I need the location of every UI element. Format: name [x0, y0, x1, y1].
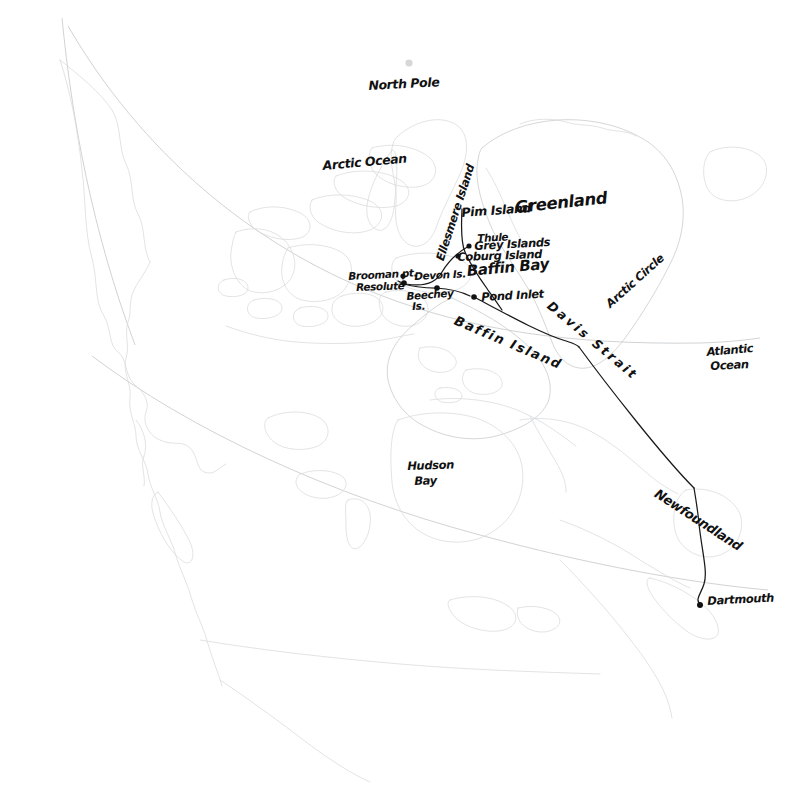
coast-baffin-inner-b	[462, 369, 502, 395]
coast-south-border	[200, 640, 600, 674]
dot-pond-inlet[interactable]	[471, 294, 477, 300]
coast-hudson-bay	[391, 413, 523, 542]
dot-dartmouth[interactable]	[697, 602, 703, 608]
arctic-circle-arc	[68, 26, 760, 343]
coast-quebec-north	[430, 399, 576, 446]
coast-devon-island	[392, 253, 471, 293]
coast-greenland-west-detail	[486, 168, 526, 248]
dot-beechey-is[interactable]	[434, 285, 440, 291]
coast-greenland	[477, 120, 683, 369]
dot-resolute[interactable]	[401, 280, 407, 286]
meridian-arc	[62, 18, 135, 345]
coast-small-island-b	[247, 298, 282, 318]
coast-great-bear-lake	[265, 412, 328, 449]
coast-prince-of-wales	[332, 293, 383, 326]
map-vector-layer	[0, 0, 803, 786]
coast-ungava	[530, 416, 566, 492]
dot-brooman-pt[interactable]	[400, 273, 405, 278]
map-canvas: North Pole Arctic Ocean Greenland Baffin…	[0, 0, 803, 786]
route-segment-newfoundland-to-dartmouth	[694, 488, 705, 605]
coast-baffin-inner-a	[418, 347, 456, 373]
coast-labrador	[520, 419, 678, 495]
coast-small-island-a	[293, 306, 328, 326]
north-pole-dot	[405, 59, 412, 66]
coast-alaska-panhandle	[125, 262, 222, 686]
expedition-route-group	[398, 209, 705, 605]
coast-mexico	[220, 680, 370, 782]
coast-archipelago-d	[369, 145, 435, 187]
coast-great-lakes-b	[517, 606, 559, 632]
coastline-group	[60, 60, 767, 782]
coast-iceland	[704, 147, 767, 201]
coast-alaska-west	[60, 60, 150, 262]
route-segment-davis-strait	[579, 347, 694, 488]
parallel-arc	[92, 356, 768, 590]
coast-great-lakes-a	[448, 597, 516, 632]
coast-lake-winnipeg	[346, 499, 371, 549]
coast-archipelago-b	[310, 195, 382, 233]
coast-stlawrence	[560, 520, 690, 588]
route-segment-beechey-to-pond	[474, 297, 579, 347]
coast-small-island-c	[218, 278, 248, 296]
coast-archipelago-a	[248, 207, 310, 240]
graticule-group	[62, 18, 768, 590]
dot-coburg-island[interactable]	[455, 253, 460, 258]
coast-eastern-seaboard	[560, 560, 672, 718]
coast-baffin-lake	[435, 387, 462, 402]
coast-novascotia	[647, 578, 718, 639]
coast-alaska	[60, 60, 226, 473]
coast-baffin-island	[387, 298, 550, 439]
route-segment-grey-to-resolute	[398, 246, 469, 285]
dot-grey-islands[interactable]	[466, 243, 471, 248]
coast-newfoundland-island	[674, 489, 742, 557]
coast-somerset-island	[379, 290, 428, 326]
coast-axel-heiberg	[367, 150, 397, 230]
coast-banks-island	[231, 229, 295, 293]
coast-mainland-north	[226, 326, 414, 344]
